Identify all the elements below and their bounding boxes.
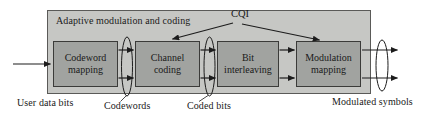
modulated-symbols-ellipse bbox=[376, 40, 388, 91]
block-codeword-mapping-line2: mapping bbox=[68, 64, 103, 77]
block-channel-coding-line1: Channel bbox=[151, 52, 184, 65]
coded-bits-label: Coded bits bbox=[187, 100, 231, 111]
block-modulation-mapping: Modulation mapping bbox=[296, 41, 361, 87]
block-channel-coding: Channel coding bbox=[135, 41, 200, 87]
codewords-label: Codewords bbox=[104, 100, 150, 111]
block-bit-interleaving-line2: interleaving bbox=[224, 64, 272, 77]
block-bit-interleaving: Bit interleaving bbox=[217, 41, 279, 87]
block-codeword-mapping: Codeword mapping bbox=[53, 41, 118, 87]
block-channel-coding-line2: coding bbox=[154, 64, 181, 77]
block-modulation-mapping-line1: Modulation bbox=[305, 52, 352, 65]
block-bit-interleaving-line1: Bit bbox=[242, 52, 254, 65]
block-modulation-mapping-line2: mapping bbox=[311, 64, 346, 77]
user-data-bits-label: User data bits bbox=[17, 97, 73, 108]
group-title: Adaptive modulation and coding bbox=[56, 15, 190, 26]
block-codeword-mapping-line1: Codeword bbox=[65, 52, 107, 65]
cqi-label: CQI bbox=[224, 8, 256, 19]
amc-block-diagram: Adaptive modulation and coding CQI Codew… bbox=[0, 0, 433, 125]
modulated-symbols-label: Modulated symbols bbox=[332, 96, 413, 107]
